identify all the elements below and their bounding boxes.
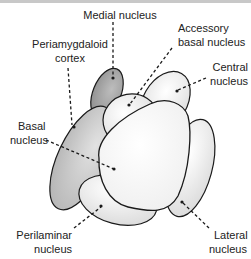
dot-basal <box>112 167 115 170</box>
dot-central <box>175 89 178 92</box>
label-lateral-line1: Lateral <box>214 229 248 242</box>
label-lateral-line2: nucleus <box>209 243 247 256</box>
label-periamygdaloid-line2: cortex <box>30 52 110 65</box>
label-perilaminar-line1: Perilaminar <box>10 229 72 242</box>
dot-medial <box>111 76 114 79</box>
label-central-line1: Central <box>200 61 248 74</box>
label-accessory-line1: Accessory <box>178 22 229 35</box>
label-basal-line2: nucleus <box>10 134 48 147</box>
dot-periamygdaloid <box>72 125 75 128</box>
leader-periamygdaloid <box>68 68 72 125</box>
label-perilaminar-line2: nucleus <box>10 243 72 256</box>
label-accessory-line2: basal nucleus <box>178 36 245 49</box>
dot-perilaminar <box>99 204 102 207</box>
dot-lateral <box>180 200 183 203</box>
label-basal-line1: Basal <box>18 120 46 133</box>
label-central-line2: nucleus <box>200 75 248 88</box>
dot-accessory <box>127 103 130 106</box>
label-medial-nucleus: Medial nucleus <box>78 9 162 22</box>
label-periamygdaloid-line1: Periamygdaloid <box>30 38 110 51</box>
